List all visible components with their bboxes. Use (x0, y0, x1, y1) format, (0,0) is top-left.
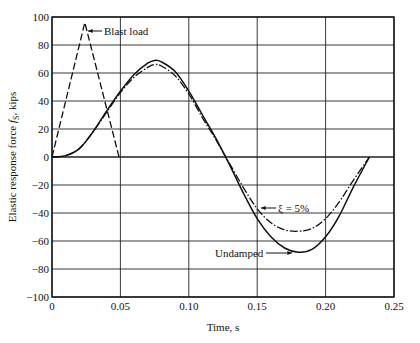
annotation-label: Undamped (215, 247, 264, 259)
arrowhead-icon (88, 29, 93, 33)
y-tick-label: 20 (38, 123, 50, 135)
x-tick-label: 0.25 (384, 300, 404, 312)
chart-series (52, 23, 369, 253)
response-chart: 100806040200−20−40−60−80−100 00.050.100.… (0, 0, 420, 343)
x-tick-label: 0.20 (316, 300, 336, 312)
series-5-line (52, 64, 369, 231)
y-tick-label: 60 (38, 67, 50, 79)
annotation-label: Blast load (104, 25, 149, 37)
y-tick-label: 80 (38, 39, 50, 51)
y-tick-label: 100 (33, 11, 50, 23)
x-axis-ticks: 00.050.100.150.200.25 (49, 300, 404, 312)
x-tick-label: 0 (49, 300, 55, 312)
x-axis-label: Time, s (207, 321, 240, 333)
x-tick-label: 0.15 (248, 300, 268, 312)
y-tick-label: 0 (44, 151, 50, 163)
y-tick-label: −100 (26, 291, 49, 303)
y-tick-label: −60 (32, 235, 50, 247)
y-tick-label: −40 (32, 207, 50, 219)
y-axis-ticks: 100806040200−20−40−60−80−100 (26, 11, 49, 303)
y-axis-label: Elastic response force fS, kips (6, 92, 21, 223)
series-blast-load-line (52, 23, 119, 157)
x-tick-label: 0.05 (111, 300, 131, 312)
y-tick-label: 40 (38, 95, 50, 107)
chart-annotations: Blast loadξ = 5%Undamped (88, 25, 309, 259)
arrowhead-icon (261, 206, 266, 210)
x-tick-label: 0.10 (179, 300, 199, 312)
annotation-label: ξ = 5% (278, 202, 309, 215)
y-tick-label: −20 (32, 179, 50, 191)
y-tick-label: −80 (32, 263, 50, 275)
